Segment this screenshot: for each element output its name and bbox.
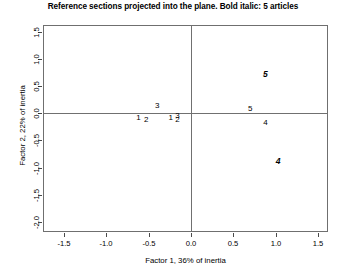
- x-axis-tick: [106, 233, 107, 237]
- x-axis-tick-label: -1.5: [49, 239, 79, 248]
- x-axis-tick-label: -0.5: [134, 239, 164, 248]
- x-axis-tick: [276, 233, 277, 237]
- x-axis-tick: [191, 233, 192, 237]
- x-axis-tick-label: 1.5: [303, 239, 333, 248]
- zero-line-horizontal: [43, 113, 328, 114]
- x-axis-tick: [318, 233, 319, 237]
- y-axis-tick-label: -2.0: [32, 210, 41, 236]
- data-point-label: 3: [155, 102, 159, 110]
- y-axis-tick-label: -0.5: [32, 128, 41, 154]
- y-axis-tick-label: 0.0: [32, 101, 41, 127]
- x-axis-tick-label: 0.5: [218, 239, 248, 248]
- scatter-plot-figure: Reference sections projected into the pl…: [0, 0, 346, 274]
- y-axis-tick-label: 1.5: [32, 20, 41, 46]
- data-point-label: 2: [144, 116, 148, 124]
- data-point-label: 4: [263, 119, 267, 127]
- y-axis-tick-label: -1.5: [32, 183, 41, 209]
- y-axis-tick-label: 1.0: [32, 47, 41, 73]
- data-point-label: 5: [248, 105, 252, 113]
- zero-line-vertical: [191, 25, 192, 232]
- x-axis-tick-label: 0.0: [176, 239, 206, 248]
- x-axis-tick: [64, 233, 65, 237]
- x-axis-tick-label: 1.0: [261, 239, 291, 248]
- x-axis-label: Factor 1, 36% of inertia: [43, 256, 328, 265]
- x-axis-tick: [149, 233, 150, 237]
- y-axis-tick-label: -1.0: [32, 156, 41, 182]
- data-point-label: 5: [263, 70, 268, 78]
- y-axis-label: Factor 2, 22% of inertia: [18, 66, 27, 186]
- x-axis-tick-label: -1.0: [91, 239, 121, 248]
- plot-area: [43, 25, 328, 232]
- data-point-label: 1: [136, 114, 140, 122]
- data-point-label: 1: [168, 114, 172, 122]
- data-point-label: 4: [276, 157, 281, 165]
- x-axis-tick: [233, 233, 234, 237]
- y-axis-tick-label: 0.5: [32, 74, 41, 100]
- page-title: Reference sections projected into the pl…: [0, 2, 346, 11]
- data-point-label: 2: [175, 116, 179, 124]
